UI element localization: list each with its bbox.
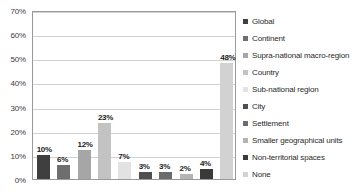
y-axis-tick-label: 20%: [11, 127, 26, 136]
bar-group: 12%: [78, 10, 91, 179]
legend: GlobalContinentSupra-national macro-regi…: [243, 13, 361, 183]
plot-area: 10%6%12%23%7%3%3%2%4%48%: [32, 11, 236, 180]
legend-item-label: Global: [252, 17, 274, 26]
bar[interactable]: [57, 165, 70, 179]
legend-item[interactable]: Non-territorial spaces: [243, 149, 361, 166]
bar[interactable]: [139, 172, 152, 179]
bar-value-label: 48%: [220, 53, 235, 62]
bar-value-label: 12%: [78, 140, 93, 149]
bar-value-label: 3%: [139, 162, 150, 171]
bar-value-label: 10%: [37, 145, 52, 154]
legend-item-label: Settlement: [252, 119, 289, 128]
bar-group: 4%: [200, 10, 213, 179]
bar-value-label: 23%: [98, 113, 113, 122]
bar[interactable]: [118, 162, 131, 179]
legend-item[interactable]: Global: [243, 13, 361, 30]
y-axis-tick-label: 60%: [11, 31, 26, 40]
legend-swatch-icon: [243, 138, 248, 143]
bar[interactable]: [180, 174, 193, 179]
legend-item-label: Continent: [252, 34, 285, 43]
legend-item[interactable]: None: [243, 166, 361, 183]
bar-chart: 0%10%20%30%40%50%60%70% 10%6%12%23%7%3%3…: [0, 0, 363, 195]
y-axis-tick-label: 70%: [11, 7, 26, 16]
legend-item-label: None: [252, 170, 271, 179]
bar-group: 3%: [139, 10, 152, 179]
bars-layer: 10%6%12%23%7%3%3%2%4%48%: [33, 12, 235, 179]
legend-item-label: Country: [252, 68, 279, 77]
bar-group: 6%: [57, 10, 70, 179]
bar[interactable]: [159, 172, 172, 179]
bar-group: 10%: [37, 10, 50, 179]
y-axis-tick-label: 30%: [11, 103, 26, 112]
legend-item-label: Smaller geographical units: [252, 136, 342, 145]
bar-group: 3%: [159, 10, 172, 179]
bar[interactable]: [220, 63, 233, 179]
legend-swatch-icon: [243, 155, 248, 160]
bar-value-label: 6%: [57, 155, 68, 164]
bar[interactable]: [37, 155, 50, 179]
legend-item[interactable]: Sub-national region: [243, 81, 361, 98]
legend-item[interactable]: Smaller geographical units: [243, 132, 361, 149]
y-axis-tick-label: 40%: [11, 79, 26, 88]
bar-value-label: 3%: [159, 162, 170, 171]
y-axis-tick-label: 50%: [11, 55, 26, 64]
legend-item[interactable]: City: [243, 98, 361, 115]
legend-item[interactable]: Country: [243, 64, 361, 81]
legend-swatch-icon: [243, 70, 248, 75]
bar-value-label: 7%: [118, 152, 129, 161]
bar-group: 23%: [98, 10, 111, 179]
legend-item[interactable]: Continent: [243, 30, 361, 47]
bar-group: 48%: [220, 10, 233, 179]
y-axis-tick-label: 10%: [11, 151, 26, 160]
bar-value-label: 2%: [180, 164, 191, 173]
legend-swatch-icon: [243, 172, 248, 177]
legend-item[interactable]: Supra-national macro-region: [243, 47, 361, 64]
bar[interactable]: [98, 123, 111, 179]
legend-swatch-icon: [243, 87, 248, 92]
legend-item-label: Sub-national region: [252, 85, 319, 94]
legend-item-label: City: [252, 102, 265, 111]
legend-swatch-icon: [243, 104, 248, 109]
legend-swatch-icon: [243, 53, 248, 58]
legend-item[interactable]: Settlement: [243, 115, 361, 132]
bar-value-label: 4%: [200, 159, 211, 168]
y-axis: 0%10%20%30%40%50%60%70%: [0, 11, 29, 180]
legend-item-label: Supra-national macro-region: [252, 51, 349, 60]
legend-swatch-icon: [243, 19, 248, 24]
legend-swatch-icon: [243, 121, 248, 126]
bar[interactable]: [78, 150, 91, 179]
bar-group: 2%: [180, 10, 193, 179]
legend-item-label: Non-territorial spaces: [252, 153, 325, 162]
legend-swatch-icon: [243, 36, 248, 41]
bar[interactable]: [200, 169, 213, 179]
bar-group: 7%: [118, 10, 131, 179]
y-axis-tick-label: 0%: [15, 176, 26, 185]
